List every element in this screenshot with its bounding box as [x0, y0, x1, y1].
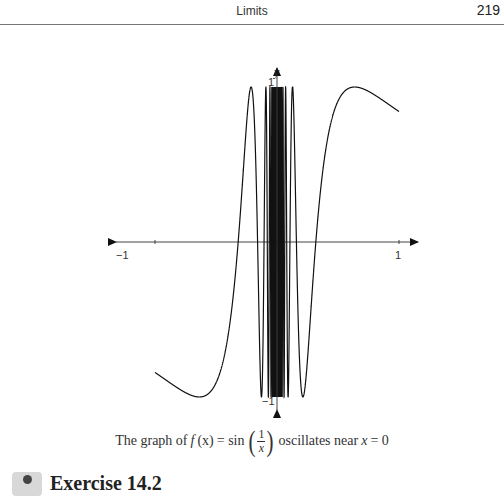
fraction-numerator: 1 [258, 428, 264, 441]
exercise-title: Exercise 14.2 [50, 472, 162, 495]
exercise-heading: Exercise 14.2 [12, 472, 162, 496]
figure-caption: The graph of f(x) = sin ( 1 x ) oscillat… [0, 426, 504, 456]
fraction-denominator: x [259, 442, 264, 455]
exercise-icon [12, 472, 42, 496]
caption-prefix: The graph of [115, 433, 187, 449]
x-min-label: −1 [116, 249, 129, 261]
caption-var: x [361, 433, 367, 449]
y-min-label: −1 [262, 395, 275, 407]
caption-equals: = sin [217, 433, 245, 449]
caption-arg: (x) [197, 433, 213, 449]
y-max-label: 1 [268, 76, 274, 88]
caption-func: f [191, 433, 195, 449]
x-max-label: 1 [395, 249, 401, 261]
caption-suffix: oscillates near [278, 433, 358, 449]
caption-tail: = 0 [370, 433, 388, 449]
caption-fraction: ( 1 x ) [247, 426, 275, 456]
